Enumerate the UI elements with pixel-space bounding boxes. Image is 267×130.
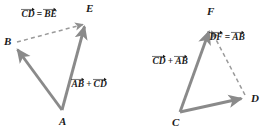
figure-canvas bbox=[0, 0, 267, 130]
vertex-label-c: C bbox=[172, 117, 179, 128]
equation-df-equals-ab: DF=AB bbox=[209, 33, 245, 43]
vector-term: AB bbox=[175, 57, 189, 67]
right-triangle-group bbox=[180, 31, 245, 112]
vertex-label-a: A bbox=[59, 116, 66, 127]
vector-term: CD bbox=[152, 57, 166, 67]
arrow-a-to-b bbox=[18, 50, 63, 111]
arrow-c-to-d bbox=[180, 99, 242, 113]
equation-cd-equals-be: CD=BE bbox=[21, 10, 57, 20]
vector-term-text: BE bbox=[44, 9, 57, 19]
vertex-label-e: E bbox=[86, 3, 93, 14]
vertex-label-d: D bbox=[251, 93, 259, 104]
operator-symbol: = bbox=[35, 10, 43, 20]
left-triangle-group bbox=[17, 25, 85, 111]
vector-term-text: AB bbox=[232, 32, 245, 42]
vector-diagram-figure: B E A C F D CD=BE AB+CD DF=AB CD+AB bbox=[0, 0, 267, 130]
vector-term: CD bbox=[21, 10, 35, 20]
equation-ab-plus-cd: AB+CD bbox=[71, 80, 107, 90]
vertex-label-f: F bbox=[207, 6, 214, 17]
equation-cd-plus-ab: CD+AB bbox=[152, 57, 188, 67]
vector-term-text: CD bbox=[94, 79, 107, 89]
arrow-c-to-f bbox=[180, 32, 209, 113]
arrow-a-to-e bbox=[62, 27, 85, 111]
operator-symbol: + bbox=[85, 80, 93, 90]
vector-term: AB bbox=[71, 80, 85, 90]
vector-term-text: DF bbox=[210, 32, 223, 42]
operator-symbol: + bbox=[166, 57, 174, 67]
vector-term-text: AB bbox=[175, 56, 188, 66]
vector-term-text: CD bbox=[153, 56, 166, 66]
arrow-b-to-e-dashed bbox=[17, 25, 83, 43]
vertex-label-b: B bbox=[4, 36, 11, 47]
vector-term-text: CD bbox=[22, 9, 35, 19]
vector-term: DF bbox=[209, 33, 223, 43]
vector-term: BE bbox=[44, 10, 58, 20]
vector-term: CD bbox=[93, 80, 107, 90]
vector-term-text: AB bbox=[72, 79, 85, 89]
vector-term: AB bbox=[232, 33, 246, 43]
operator-symbol: = bbox=[223, 33, 231, 43]
